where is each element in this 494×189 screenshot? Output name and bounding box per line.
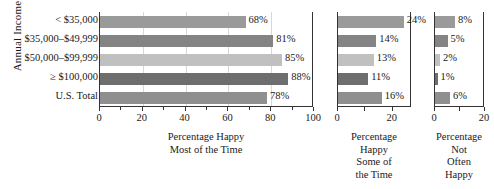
bar-row: 68% (100, 12, 312, 31)
plot-area: 8%5%2%1%6% (434, 12, 484, 107)
x-tick-major (227, 107, 228, 111)
x-tick-major (99, 107, 100, 111)
x-axis-title-line: Happy (412, 169, 494, 182)
bar-value-label: 68% (249, 14, 268, 25)
x-tick-label: 100 (305, 112, 321, 123)
bar (435, 92, 450, 104)
x-axis-title-line: Percentage (327, 131, 421, 144)
x-tick-minor (206, 107, 207, 110)
bar-value-label: 24% (407, 14, 426, 25)
plot-area: 24%14%13%11%16% (337, 12, 411, 107)
x-tick-label: 80 (265, 112, 276, 123)
bar-row: 14% (338, 31, 410, 50)
x-tick-minor (292, 107, 293, 110)
bar (338, 73, 368, 85)
x-tick-label: 60 (222, 112, 233, 123)
bar-row: 1% (435, 69, 483, 88)
category-label: U.S. Total (18, 88, 98, 107)
x-tick-major (270, 107, 271, 111)
bar (100, 92, 267, 104)
bar (338, 35, 376, 47)
x-axis-title: PercentageNotOftenHappy (412, 131, 494, 181)
category-label: $35,000–$49,999 (18, 31, 98, 50)
x-tick-major (185, 107, 186, 111)
x-tick-label: 20 (137, 112, 148, 123)
x-tick-label: 20 (479, 112, 490, 123)
x-axis-title-line: Not (412, 144, 494, 157)
x-tick-minor (120, 107, 121, 110)
x-tick-label: 20 (387, 112, 398, 123)
bar-rows: 24%14%13%11%16% (338, 12, 410, 106)
x-tick-major (364, 107, 365, 111)
x-tick-major (313, 107, 314, 111)
x-tick-major (337, 107, 338, 111)
bar-row: 24% (338, 12, 410, 31)
panel-percentage-happy-some-of-the-time: 24%14%13%11%16% 020 PercentageHappySome … (337, 12, 411, 125)
plot-area: 68%81%85%88%78% (99, 12, 313, 107)
bar (435, 35, 448, 47)
bar-row: 85% (100, 50, 312, 69)
x-tick-major (484, 107, 485, 111)
bar-value-label: 13% (377, 52, 396, 63)
bar-row: 6% (435, 88, 483, 107)
bar (338, 54, 374, 66)
bar-value-label: 5% (451, 33, 465, 44)
bar (435, 16, 455, 28)
x-tick-minor (163, 107, 164, 110)
bar (338, 92, 382, 104)
x-axis-title-line: Percentage (412, 131, 494, 144)
bar-value-label: 81% (276, 33, 295, 44)
bar-row: 8% (435, 12, 483, 31)
bar (100, 73, 288, 85)
bar-value-label: 1% (441, 71, 455, 82)
bar-rows: 8%5%2%1%6% (435, 12, 483, 106)
x-axis-title: Percentage HappyMost of the Time (99, 131, 313, 156)
x-axis-title-line: Most of the Time (99, 144, 313, 157)
x-axis-tick-labels: 020406080100 (99, 112, 313, 125)
x-tick-label: 0 (96, 112, 101, 123)
x-axis-title-line: the Time (327, 169, 421, 182)
x-axis-title-line: Happy (327, 144, 421, 157)
x-axis-title-line: Some of (327, 156, 421, 169)
category-label-column: < $35,000 $35,000–$49,999 $50,000–$99,99… (18, 12, 98, 107)
bar-value-label: 14% (379, 33, 398, 44)
bar-value-label: 78% (270, 90, 289, 101)
bar-value-label: 16% (385, 90, 404, 101)
bar-value-label: 6% (453, 90, 467, 101)
bar-value-label: 88% (291, 71, 310, 82)
bar (338, 16, 404, 28)
bar-value-label: 2% (443, 52, 457, 63)
bar-row: 13% (338, 50, 410, 69)
x-tick-label: 40 (179, 112, 190, 123)
bar-row: 11% (338, 69, 410, 88)
bar-row: 2% (435, 50, 483, 69)
x-tick-label: 0 (334, 112, 339, 123)
x-axis-title: PercentageHappySome ofthe Time (327, 131, 421, 181)
x-axis-tick-labels: 020 (434, 112, 484, 125)
bar-row: 5% (435, 31, 483, 50)
x-axis-tick-labels: 020 (337, 112, 411, 125)
panel-percentage-happy-most-of-the-time: 68%81%85%88%78% 020406080100 Percentage … (99, 12, 313, 125)
x-axis-title-line: Percentage Happy (99, 131, 313, 144)
bar-rows: 68%81%85%88%78% (100, 12, 312, 106)
bar (435, 54, 440, 66)
bar-row: 88% (100, 69, 312, 88)
x-tick-major (392, 107, 393, 111)
panel-percentage-not-often-happy: 8%5%2%1%6% 020 PercentageNotOftenHappy (434, 12, 484, 125)
bar (100, 54, 282, 66)
x-tick-minor (249, 107, 250, 110)
category-label: $50,000–$99,999 (18, 50, 98, 69)
x-tick-major (434, 107, 435, 111)
category-label: ≥ $100,000 (18, 69, 98, 88)
bar-value-label: 8% (458, 14, 472, 25)
bar-value-label: 11% (371, 71, 390, 82)
bar (100, 16, 246, 28)
category-label: < $35,000 (18, 12, 98, 31)
bar-value-label: 85% (285, 52, 304, 63)
bar-row: 81% (100, 31, 312, 50)
x-axis-title-line: Often (412, 156, 494, 169)
x-tick-label: 0 (431, 112, 436, 123)
x-tick-major (459, 107, 460, 111)
bar (435, 73, 438, 85)
